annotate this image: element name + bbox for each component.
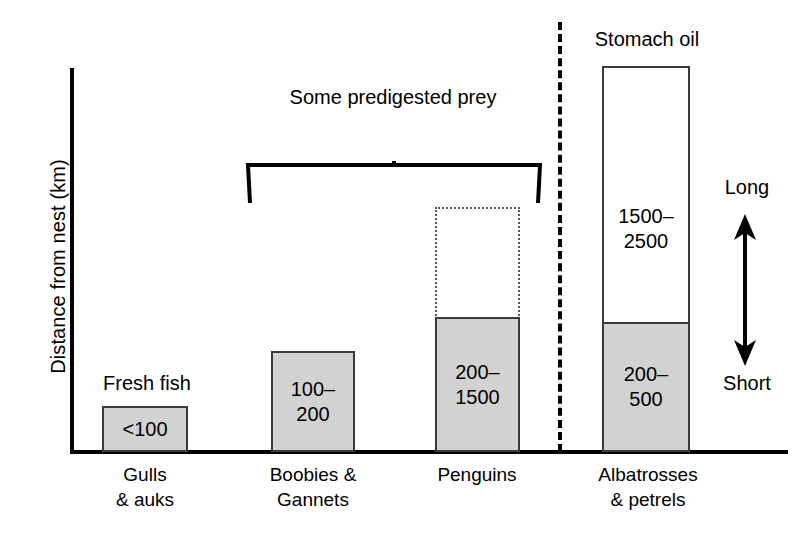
fresh-fish-label: Fresh fish [92, 372, 202, 395]
category-label-gulls-auks: Gulls & auks [85, 462, 205, 512]
group-divider-dashed-line [558, 22, 562, 452]
scale-long-label: Long [700, 176, 794, 199]
bar-penguins-gray: 200– 1500 [435, 317, 520, 452]
bar-albatrosses-petrels-white: 1500– 2500 [602, 66, 690, 324]
bar-albatrosses-petrels-white-value: 1500– 2500 [604, 204, 688, 254]
category-label-albatrosses-petrels: Albatrosses & petrels [576, 462, 720, 512]
y-axis-title: Distance from nest (km) [47, 117, 70, 417]
chart-figure: Distance from nest (km) Some predigested… [0, 0, 794, 541]
bar-gulls-auks-value: <100 [104, 417, 186, 442]
bar-boobies-gannets-value: 100– 200 [273, 377, 353, 427]
bar-penguins-value: 200– 1500 [437, 360, 518, 410]
bar-albatrosses-petrels-gray-value: 200– 500 [604, 362, 688, 412]
category-label-boobies-gannets: Boobies & Gannets [243, 462, 383, 512]
category-label-penguins: Penguins [407, 462, 547, 487]
y-axis-line [70, 68, 74, 454]
predigested-prey-bracket-icon [244, 161, 544, 205]
bar-gulls-auks-gray: <100 [102, 406, 188, 452]
predigested-prey-label: Some predigested prey [244, 86, 542, 109]
bar-boobies-gannets-gray: 100– 200 [271, 351, 355, 452]
stomach-oil-label: Stomach oil [577, 28, 717, 51]
bar-penguins-dotted-extension [435, 207, 520, 319]
scale-short-label: Short [700, 372, 794, 395]
bar-albatrosses-petrels-gray: 200– 500 [602, 322, 690, 452]
long-short-double-arrow-icon [722, 214, 768, 366]
